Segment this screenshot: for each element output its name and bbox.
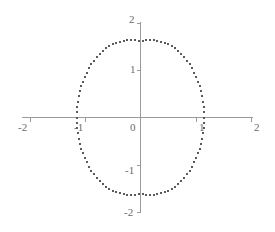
data-point (164, 191, 166, 193)
data-point (183, 56, 185, 58)
data-point (115, 191, 117, 193)
y-tick-label-pos2: 2 (129, 14, 135, 25)
data-point (82, 81, 84, 83)
data-point (88, 166, 90, 168)
data-point (160, 41, 162, 43)
data-point (96, 56, 98, 58)
data-point (79, 143, 81, 145)
data-point (145, 39, 147, 41)
plot-canvas (0, 0, 275, 232)
data-point (96, 177, 98, 179)
data-point (177, 183, 179, 185)
data-point (195, 76, 197, 78)
data-point (119, 192, 121, 194)
x-tick-label-neg2: -2 (18, 122, 27, 133)
data-point (126, 39, 128, 41)
data-point (79, 90, 81, 92)
data-point (153, 39, 155, 41)
data-point (82, 152, 84, 154)
data-point (134, 39, 136, 41)
data-point (76, 106, 78, 108)
data-point (142, 193, 144, 195)
data-point (123, 40, 125, 42)
data-point (156, 40, 158, 42)
data-point (186, 173, 188, 175)
data-point (105, 47, 107, 49)
data-point (174, 186, 176, 188)
data-point (99, 180, 101, 182)
data-point (197, 152, 199, 154)
data-point (180, 53, 182, 55)
x-tick-label-pos1: 1 (199, 122, 205, 133)
data-point (171, 45, 173, 47)
x-tick-label-neg1: -1 (74, 122, 83, 133)
data-point (186, 60, 188, 62)
data-point (88, 67, 90, 69)
data-point (199, 85, 201, 87)
data-point (126, 194, 128, 196)
data-point (138, 40, 140, 42)
data-point (189, 63, 191, 65)
data-point (77, 101, 79, 103)
data-point (130, 194, 132, 196)
data-point (86, 72, 88, 74)
data-point (78, 95, 80, 97)
data-point (142, 40, 144, 42)
data-point (149, 194, 151, 196)
data-point (174, 47, 176, 49)
y-tick-label-neg2: -2 (124, 207, 133, 218)
data-point (102, 50, 104, 52)
x-tick-label-pos2: 2 (254, 122, 260, 133)
data-point (153, 194, 155, 196)
data-point (84, 157, 86, 159)
data-point (197, 81, 199, 83)
data-point (156, 193, 158, 195)
data-point (86, 161, 88, 163)
y-tick-label-pos1: 1 (130, 64, 136, 75)
data-point (119, 41, 121, 43)
data-point (93, 173, 95, 175)
data-point (167, 43, 169, 45)
data-point (191, 67, 193, 69)
data-point (138, 193, 140, 195)
data-point (164, 42, 166, 44)
data-point (112, 43, 114, 45)
data-point (203, 106, 205, 108)
data-point (123, 193, 125, 195)
data-point (199, 148, 201, 150)
data-point (108, 45, 110, 47)
data-point (84, 76, 86, 78)
axes-group (22, 22, 253, 213)
data-point (76, 111, 78, 113)
origin-label: 0 (130, 122, 136, 133)
data-point (200, 90, 202, 92)
y-tick-label-neg1: -1 (125, 165, 134, 176)
data-point (193, 161, 195, 163)
data-point (145, 194, 147, 196)
data-point (177, 50, 179, 52)
scatter-plot-figure: -2 -1 0 1 2 2 1 -1 -2 (0, 0, 275, 232)
data-point (149, 39, 151, 41)
data-point (112, 190, 114, 192)
data-point (193, 72, 195, 74)
data-point (80, 85, 82, 87)
data-point (134, 194, 136, 196)
data-point (93, 60, 95, 62)
data-point (76, 117, 78, 119)
data-point (130, 39, 132, 41)
data-point (195, 157, 197, 159)
data-point (90, 170, 92, 172)
data-point (105, 186, 107, 188)
data-point (78, 138, 80, 140)
data-point (183, 177, 185, 179)
data-point (189, 170, 191, 172)
data-point (167, 190, 169, 192)
data-point (115, 42, 117, 44)
data-point (202, 101, 204, 103)
data-point (201, 95, 203, 97)
data-point (203, 111, 205, 113)
data-point (99, 53, 101, 55)
data-point (201, 138, 203, 140)
data-point (80, 148, 82, 150)
data-point (191, 166, 193, 168)
